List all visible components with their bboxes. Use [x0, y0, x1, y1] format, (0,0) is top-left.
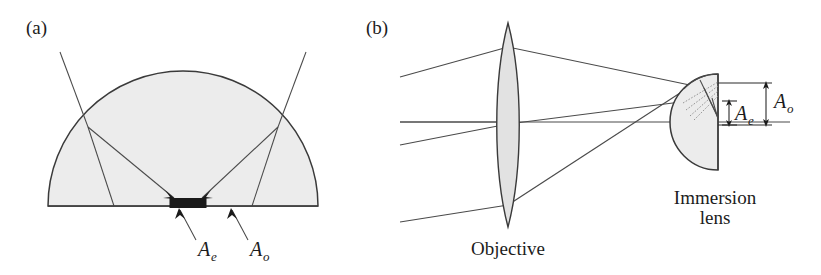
panel-a-label-ao: A o — [248, 238, 270, 264]
panel-b-label-ae: A e — [733, 102, 754, 128]
ray-lower-incoming — [400, 205, 508, 222]
panel-b-label-ao: A o — [772, 90, 794, 116]
panel-a-ao-subscript: o — [263, 249, 270, 264]
panel-b-ae-subscript: e — [748, 113, 754, 128]
panel-a-label-ae: A e — [196, 238, 217, 264]
panel-b-letter: (b) — [366, 17, 388, 39]
figure-container: A e A o (a) — [0, 0, 821, 275]
panel-a-ae-symbol: A — [196, 238, 211, 260]
leader-arrow-ao — [227, 208, 237, 219]
ray-upper-incoming — [400, 47, 508, 77]
panel-b-ao-subscript: o — [787, 101, 794, 116]
leader-arrow-ae — [175, 208, 185, 219]
panel-b: A e A o Immersion lens Objective (b) — [366, 17, 794, 259]
emitting-area-block — [170, 199, 206, 208]
panel-a: A e A o (a) — [26, 17, 318, 264]
panel-b-ae-symbol: A — [733, 102, 748, 124]
ray-middle-incoming — [400, 124, 508, 145]
immersion-hemisphere-shape — [48, 71, 318, 206]
panel-a-ae-subscript: e — [211, 249, 217, 264]
incident-ray-right — [278, 52, 306, 127]
ray-upper-outgoing — [508, 47, 704, 88]
panel-a-ao-symbol: A — [248, 238, 263, 260]
figure-svg: A e A o (a) — [0, 0, 821, 275]
panel-a-letter: (a) — [26, 17, 47, 39]
panel-b-ao-symbol: A — [772, 90, 787, 112]
incident-ray-left — [60, 52, 88, 127]
objective-label: Objective — [471, 238, 545, 259]
objective-lens-shape — [497, 23, 520, 227]
immersion-lens-label-line1: Immersion — [674, 187, 757, 208]
immersion-lens-label-line2: lens — [700, 207, 731, 228]
ray-lower-outgoing — [508, 80, 700, 205]
immersion-lens-shape — [670, 74, 718, 170]
